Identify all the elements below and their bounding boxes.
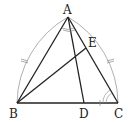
angle-mark-a — [62, 28, 74, 30]
segment-be — [17, 48, 86, 103]
label-a: A — [62, 3, 72, 17]
label-d: D — [79, 107, 89, 121]
angle-mark-a-2 — [63, 30, 75, 32]
label-b: B — [9, 107, 18, 121]
label-c: C — [114, 107, 123, 121]
geometry-diagram: A B C D E — [0, 0, 128, 123]
label-e: E — [88, 36, 97, 50]
angle-mark-c — [106, 93, 112, 103]
arc-tick-left — [21, 59, 28, 63]
